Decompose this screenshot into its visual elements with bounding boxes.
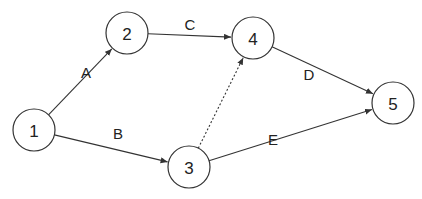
edge-label-D: D xyxy=(304,66,315,83)
network-diagram: 12345 ABCDE xyxy=(0,0,422,199)
edge-label-B: B xyxy=(113,125,123,142)
node-1: 1 xyxy=(13,109,55,151)
node-label: 5 xyxy=(388,95,397,114)
edge-4-5-arrow xyxy=(272,47,373,94)
edges-layer xyxy=(49,34,374,162)
node-4: 4 xyxy=(232,17,274,59)
node-label: 1 xyxy=(29,122,38,141)
nodes-layer: 12345 xyxy=(13,12,414,188)
node-label: 3 xyxy=(184,159,193,178)
edge-label-E: E xyxy=(268,131,278,148)
node-5: 5 xyxy=(372,82,414,124)
node-label: 4 xyxy=(248,30,257,49)
edge-3-4-dummy-arrow xyxy=(198,58,243,149)
edge-label-A: A xyxy=(81,64,91,81)
node-label: 2 xyxy=(122,25,131,44)
edge-2-4-arrow xyxy=(148,34,231,37)
edge-label-C: C xyxy=(185,16,196,33)
edge-1-2-arrow xyxy=(49,49,112,115)
node-3: 3 xyxy=(168,146,210,188)
edge-3-5-arrow xyxy=(209,110,372,161)
node-2: 2 xyxy=(106,12,148,54)
edge-1-3-arrow xyxy=(54,135,167,162)
